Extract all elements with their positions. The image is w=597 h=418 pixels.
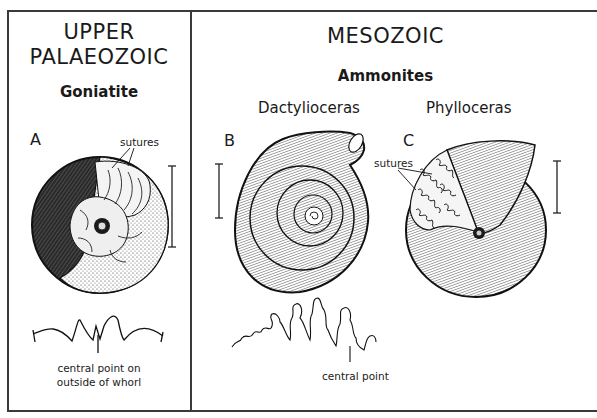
dactylioceras-shell-illustration	[235, 131, 368, 292]
scale-bar-c	[553, 161, 561, 213]
phylloceras-shell-illustration	[398, 141, 546, 297]
scale-bar-b	[215, 164, 223, 218]
scale-bar-a	[168, 166, 176, 247]
dactylioceras-suture-line	[232, 298, 376, 362]
goniatite-shell-illustration	[32, 148, 168, 293]
goniatite-suture-line	[33, 316, 163, 353]
